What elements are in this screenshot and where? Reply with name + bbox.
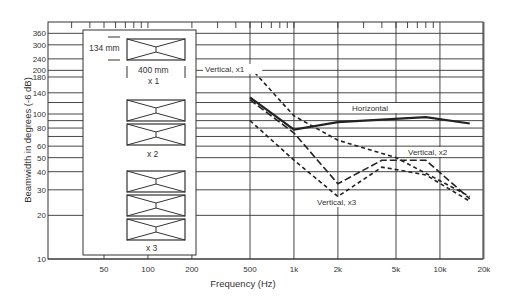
y-tick-label: 20 bbox=[37, 211, 46, 220]
y-tick-label: 360 bbox=[33, 29, 47, 38]
x1-label: x 1 bbox=[148, 76, 160, 86]
x-tick-label: 1k bbox=[290, 265, 299, 274]
y-tick-label: 300 bbox=[33, 41, 47, 50]
x-tick-label: 200 bbox=[185, 265, 199, 274]
y-tick-label: 40 bbox=[37, 168, 46, 177]
y-tick-label: 50 bbox=[37, 154, 46, 163]
series-annotation: Vertical, x2 bbox=[408, 148, 448, 157]
x3-label: x 3 bbox=[146, 243, 158, 253]
dim-width-label: 400 mm bbox=[138, 65, 169, 75]
beamwidth-chart: 1020304050608010014018020024030036050100… bbox=[0, 0, 513, 305]
y-axis-label: Beamwidth in degrees (-6 dB) bbox=[22, 77, 33, 203]
y-tick-label: 240 bbox=[33, 55, 47, 64]
annotations: Vertical, x1HorizontalVertical, x2Vertic… bbox=[203, 64, 465, 207]
series-annotation: Vertical, x3 bbox=[317, 198, 357, 207]
array-config-inset: 134 mm 400 mm x 1 x 2 x 3 bbox=[83, 30, 196, 255]
y-tick-label: 100 bbox=[33, 110, 47, 119]
x-tick-label: 5k bbox=[392, 265, 401, 274]
x-tick-label: 20k bbox=[477, 265, 491, 274]
x-tick-label: 500 bbox=[243, 265, 257, 274]
x-axis-label: Frequency (Hz) bbox=[210, 278, 275, 289]
series-line-vertical-x3 bbox=[250, 121, 470, 202]
series-annotation: Horizontal bbox=[352, 104, 388, 113]
series-lines bbox=[250, 67, 470, 201]
y-tick-label: 30 bbox=[37, 186, 46, 195]
y-tick-label: 200 bbox=[33, 66, 47, 75]
series-line-vertical-x1 bbox=[250, 67, 470, 196]
series-annotation: Vertical, x1 bbox=[205, 65, 245, 74]
y-tick-label: 140 bbox=[33, 89, 47, 98]
y-tick-label: 60 bbox=[37, 142, 46, 151]
x-tick-label: 2k bbox=[334, 265, 343, 274]
y-tick-label: 10 bbox=[37, 255, 46, 264]
x-tick-label: 100 bbox=[141, 265, 155, 274]
dim-height-label: 134 mm bbox=[89, 43, 120, 53]
x2-label: x 2 bbox=[147, 149, 159, 159]
x-tick-label: 50 bbox=[100, 265, 109, 274]
y-tick-label: 80 bbox=[37, 124, 46, 133]
x-tick-label: 10k bbox=[433, 265, 447, 274]
